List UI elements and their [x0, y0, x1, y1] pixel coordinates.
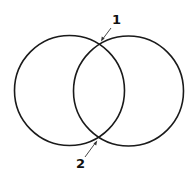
arrow-2: [85, 142, 96, 157]
left-circle: [15, 36, 125, 146]
label-1: 1: [112, 12, 121, 27]
right-circle: [74, 36, 184, 146]
venn-diagram: 1 2: [0, 0, 190, 179]
label-2: 2: [76, 156, 85, 171]
